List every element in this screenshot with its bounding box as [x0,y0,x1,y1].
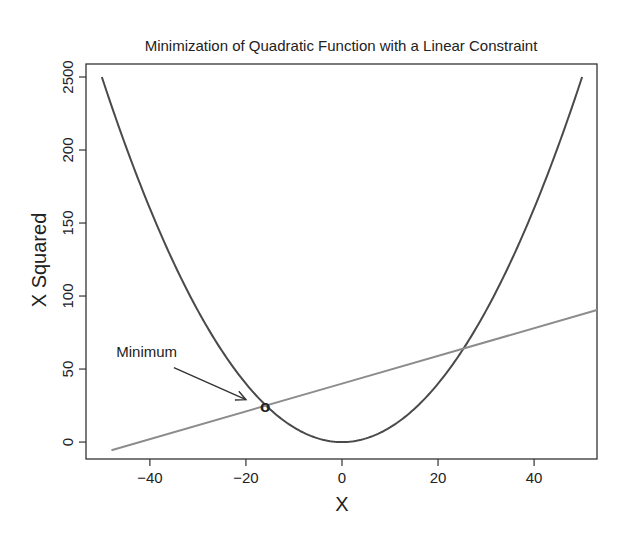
chart: Minimization of Quadratic Function with … [0,0,631,535]
y-tick-label: 50 [59,361,76,378]
arrow-icon [174,368,246,400]
y-tick-label: 0 [59,438,76,446]
x-tick-label: 20 [430,469,447,486]
minimum-point-marker: o [260,397,270,416]
y-tick-label: 2500 [59,60,76,93]
y-tick-label: 100 [59,284,76,309]
plot-frame [86,64,597,459]
y-axis: 0501001502002500 [59,60,86,446]
x-tick-label: 0 [338,469,346,486]
x-tick-label: −20 [233,469,258,486]
minimum-annotation: Minimum [116,343,246,400]
minimum-label: Minimum [116,343,177,360]
x-axis-label: X [335,493,348,515]
y-axis-label: X Squared [28,213,50,308]
x-tick-label: −40 [137,469,162,486]
x-tick-label: 40 [526,469,543,486]
plot-area: o Minimum [102,77,597,450]
constraint-line [111,310,597,450]
y-tick-label: 200 [59,137,76,162]
chart-title: Minimization of Quadratic Function with … [145,37,539,54]
y-tick-label: 150 [59,211,76,236]
x-axis: −40−2002040 [137,459,542,486]
quadratic-curve [102,77,582,442]
